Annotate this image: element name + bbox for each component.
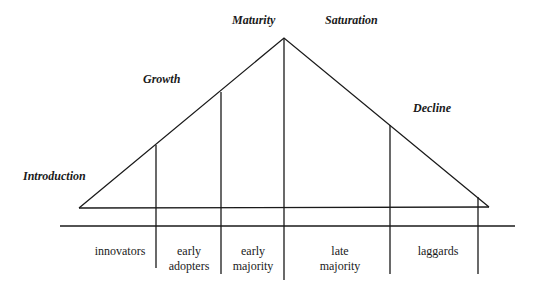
segment-late-majority: late majority [300,244,380,274]
segment-label: innovators [86,244,154,259]
phase-label-saturation: Saturation [325,13,378,28]
segment-label: laggards [400,244,476,259]
segment-label: early [223,244,283,259]
phase-label-introduction: Introduction [23,169,86,184]
segment-early-adopters: early adopters [158,244,220,274]
phase-label-growth: Growth [143,72,180,87]
phase-label-decline: Decline [413,101,451,116]
segment-laggards: laggards [400,244,476,259]
segment-early-majority: early majority [223,244,283,274]
phase-label-maturity: Maturity [232,13,275,28]
segment-label: early [158,244,220,259]
segment-innovators: innovators [86,244,154,259]
segment-label: majority [223,259,283,274]
segment-label: adopters [158,259,220,274]
segment-label: late [300,244,380,259]
segment-label: majority [300,259,380,274]
life-cycle-diagram: Introduction Growth Maturity Saturation … [0,0,534,290]
